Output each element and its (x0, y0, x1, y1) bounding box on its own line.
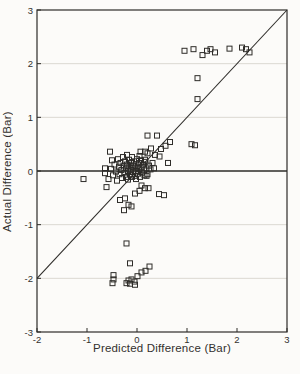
data-point-101 (157, 192, 162, 197)
data-point-17 (155, 133, 160, 138)
y-tick-label--3: -3 (25, 327, 33, 338)
data-point-6 (227, 46, 232, 51)
scatter-chart: -2-10123-3-2-10123 (0, 0, 300, 374)
data-point-104 (128, 261, 133, 266)
data-point-28 (103, 166, 108, 171)
data-point-18 (149, 146, 154, 151)
data-point-38 (115, 178, 120, 183)
data-point-103 (124, 241, 129, 246)
data-point-10 (195, 76, 200, 81)
y-tick-label-0: 0 (28, 166, 33, 177)
y-tick-label--1: -1 (25, 219, 33, 230)
data-point-102 (162, 193, 167, 198)
data-point-19 (145, 133, 150, 138)
x-axis-title: Predicted Difference (Bar) (37, 342, 287, 354)
data-point-97 (118, 197, 123, 202)
data-point-32 (108, 149, 113, 154)
y-tick-label-3: 3 (28, 5, 33, 16)
y-tick-label-2: 2 (28, 58, 33, 69)
y-tick-label--2: -2 (25, 273, 33, 284)
data-point-1 (191, 47, 196, 52)
scatter-figure: -2-10123-3-2-10123 Predicted Difference … (0, 0, 300, 374)
data-point-11 (195, 97, 200, 102)
data-point-93 (146, 186, 151, 191)
data-point-27 (166, 160, 171, 165)
data-point-0 (182, 48, 187, 53)
data-point-31 (104, 185, 109, 190)
data-point-100 (122, 208, 127, 213)
data-point-96 (123, 196, 128, 201)
data-point-90 (81, 177, 86, 182)
y-tick-label-1: 1 (28, 112, 33, 123)
y-axis-title: Actual Difference (Bar) (1, 58, 16, 286)
